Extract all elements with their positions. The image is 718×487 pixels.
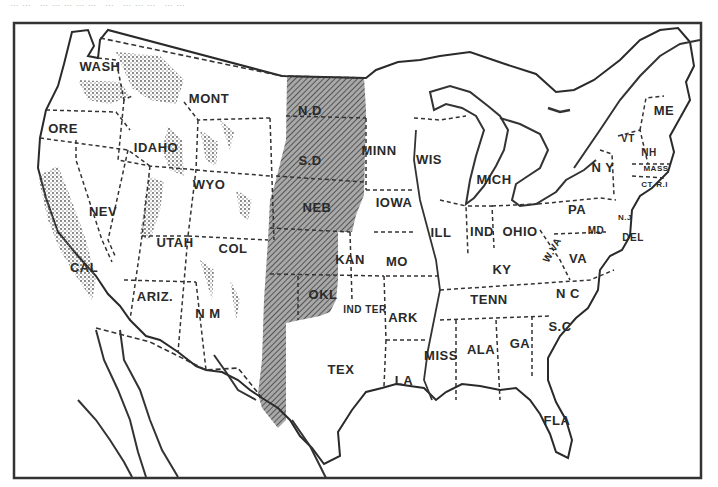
state-label-idaho: IDAHO <box>134 140 178 155</box>
state-label-tex: TEX <box>328 362 355 377</box>
state-label-ill: ILL <box>431 225 452 240</box>
state-label-del: DEL <box>622 232 644 243</box>
state-label-kan: KAN <box>335 252 365 267</box>
state-label-fla: FLA <box>544 413 571 428</box>
baja-california <box>96 330 146 477</box>
state-label-ga: GA <box>510 336 531 351</box>
state-label-ore: ORE <box>48 121 78 136</box>
state-label-ri: R.I <box>656 180 668 189</box>
state-label-ariz: ARIZ. <box>137 289 173 304</box>
state-label-wash: WASH <box>80 59 121 74</box>
state-label-ohio: OHIO <box>502 224 537 239</box>
state-label-mo: MO <box>386 254 408 269</box>
state-label-ct: CT <box>641 180 653 189</box>
state-label-mass: MASS <box>643 164 668 173</box>
state-label-nc: N C <box>556 286 580 301</box>
state-label-nm: N M <box>195 306 220 321</box>
state-label-ind-ter: IND TER <box>343 304 387 315</box>
state-label-mich: MICH <box>476 172 511 187</box>
state-label-nev: NEV <box>89 204 117 219</box>
state-label-nj: N.J <box>618 213 632 222</box>
us-outline <box>38 28 694 464</box>
state-label-vt: VT <box>621 133 635 144</box>
state-label-me: ME <box>654 103 675 118</box>
state-label-mont: MONT <box>189 91 229 106</box>
state-label-ark: ARK <box>388 310 418 325</box>
state-label-tenn: TENN <box>470 292 507 307</box>
state-label-pa: PA <box>568 202 586 217</box>
state-label-okl: OKL <box>309 287 338 302</box>
state-label-sc: S.C <box>548 319 571 334</box>
state-label-ky: KY <box>492 262 511 277</box>
state-label-la: LA <box>395 373 413 388</box>
state-label-ind: IND <box>470 224 494 239</box>
state-label-nh: NH <box>641 147 656 158</box>
state-label-nd: N.D <box>298 103 322 118</box>
state-label-ny: N Y <box>592 160 615 175</box>
state-label-ala: ALA <box>467 342 495 357</box>
state-label-md: MD <box>588 225 605 236</box>
state-label-col: COL <box>219 241 248 256</box>
state-label-minn: MINN <box>361 143 396 158</box>
state-label-neb: NEB <box>303 200 332 215</box>
state-label-utah: UTAH <box>156 235 193 250</box>
state-label-va: VA <box>569 251 587 266</box>
state-label-miss: MISS <box>424 348 458 363</box>
state-label-sd: S.D <box>298 153 321 168</box>
state-label-cal: CAL <box>70 260 98 275</box>
state-label-wis: WIS <box>416 152 442 167</box>
state-label-iowa: IOWA <box>376 195 413 210</box>
state-label-wyo: WYO <box>193 177 226 192</box>
